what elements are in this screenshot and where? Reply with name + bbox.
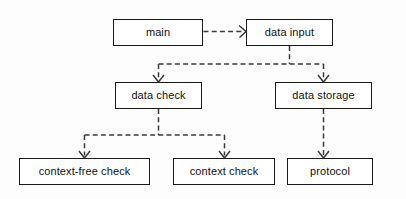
node-main-label: main <box>146 27 170 38</box>
node-context-check[interactable]: context check <box>173 158 275 185</box>
node-protocol[interactable]: protocol <box>287 158 373 185</box>
node-context-free-check[interactable]: context-free check <box>19 158 150 185</box>
node-context-check-label: context check <box>190 166 259 177</box>
node-data-input[interactable]: data input <box>246 19 333 46</box>
node-data-storage[interactable]: data storage <box>275 82 372 109</box>
flowchart-diagram: main data input data check data storage … <box>0 0 406 199</box>
node-context-free-check-label: context-free check <box>39 166 131 177</box>
node-main[interactable]: main <box>113 19 203 46</box>
node-data-storage-label: data storage <box>292 90 354 101</box>
node-data-check-label: data check <box>131 90 185 101</box>
node-protocol-label: protocol <box>310 166 350 177</box>
node-data-check[interactable]: data check <box>115 82 202 109</box>
node-data-input-label: data input <box>265 27 314 38</box>
